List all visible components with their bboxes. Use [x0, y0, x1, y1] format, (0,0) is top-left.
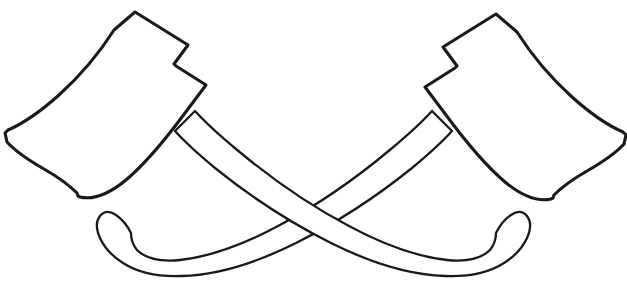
artwork-canvas: Crossed Axes Outline Drawing two crossed…: [0, 0, 627, 307]
crossed-axes-illustration: [0, 0, 627, 307]
